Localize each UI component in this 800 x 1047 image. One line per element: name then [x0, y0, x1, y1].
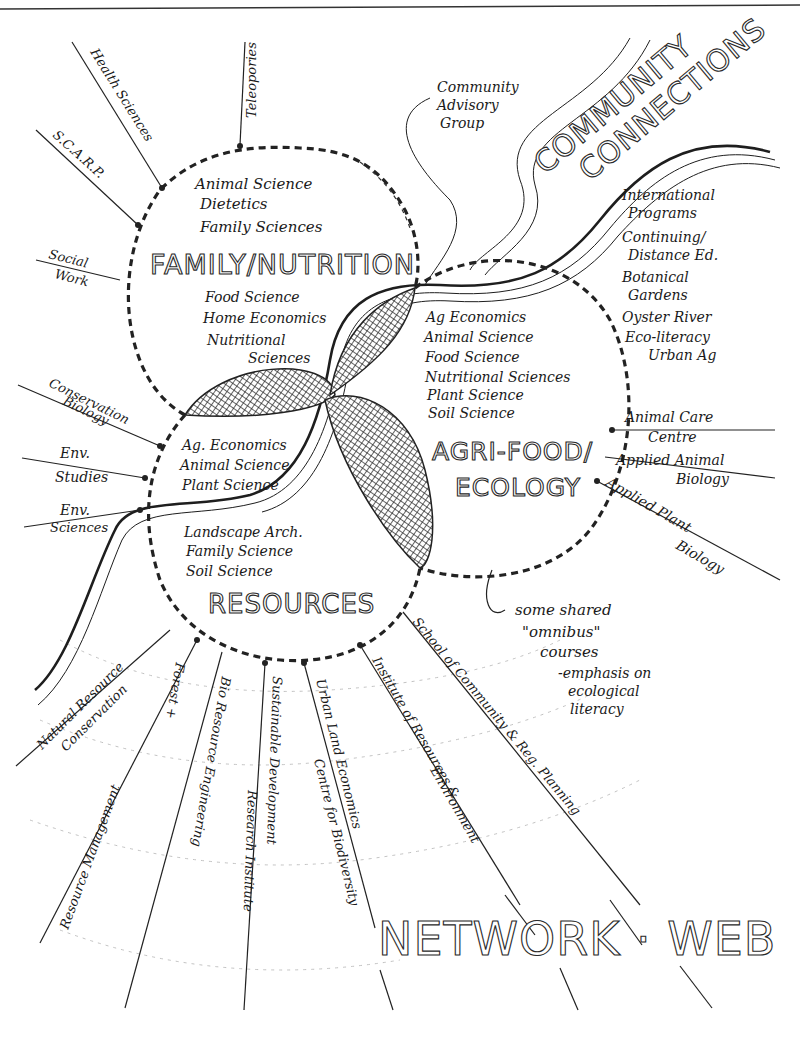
agri-food-cluster: Ag Economics Animal Science Food Science… [422, 309, 593, 502]
svg-text:Biology: Biology [673, 536, 729, 577]
agri-food-title: AGRI-FOOD/ [432, 437, 593, 466]
svg-text:Botanical: Botanical [621, 269, 689, 285]
svg-text:Home Economics: Home Economics [202, 310, 326, 326]
svg-text:Environment: Environment [427, 763, 484, 846]
svg-text:Programs: Programs [627, 205, 697, 221]
svg-text:Social: Social [47, 246, 90, 270]
svg-text:Nutritional: Nutritional [206, 332, 285, 348]
svg-text:Research Institute: Research Institute [241, 789, 260, 912]
svg-text:Family Science: Family Science [185, 543, 293, 559]
teleporties-label: Teleopories [244, 42, 259, 118]
community-connections-heading: COMMUNITY CONNECTIONS [527, 0, 773, 206]
ecology-title: ECOLOGY [455, 473, 581, 502]
svg-text:Biology: Biology [675, 471, 730, 487]
svg-text:Animal Science: Animal Science [193, 175, 312, 193]
health-sciences-label: Health Sciences [87, 45, 157, 145]
svg-text:literacy: literacy [570, 701, 625, 717]
svg-text:"omnibus": "omnibus" [522, 623, 600, 641]
svg-text:Soil Science: Soil Science [186, 563, 273, 579]
svg-text:Plant Science: Plant Science [426, 387, 524, 403]
top-border-rule [0, 5, 800, 9]
svg-text:courses: courses [540, 643, 599, 661]
svg-text:Ag. Economics: Ag. Economics [180, 437, 287, 453]
svg-text:Resource Management: Resource Management [56, 782, 123, 932]
omnibus-note: some shared "omnibus" courses -emphasis … [515, 601, 651, 717]
svg-text:-emphasis on: -emphasis on [558, 665, 651, 681]
svg-text:Oyster River: Oyster River [622, 309, 713, 325]
svg-text:Distance Ed.: Distance Ed. [627, 247, 718, 263]
svg-text:Forest +: Forest + [163, 660, 188, 720]
svg-text:Nutritional Sciences: Nutritional Sciences [424, 369, 570, 385]
svg-text:Plant Science: Plant Science [181, 477, 279, 493]
svg-text:Eco-literacy: Eco-literacy [624, 329, 711, 345]
svg-text:Dietetics: Dietetics [199, 195, 268, 213]
svg-text:Landscape Arch.: Landscape Arch. [183, 524, 303, 540]
resources-cluster: Ag. Economics Animal Science Plant Scien… [178, 437, 375, 619]
applied-animal-label: Applied Animal Biology [614, 452, 730, 487]
svg-text:Animal Science: Animal Science [422, 329, 534, 345]
applied-plant-label: Applied Plant Biology [602, 473, 729, 578]
svg-text:Sustainable Development: Sustainable Development [264, 676, 285, 846]
svg-text:Food Science: Food Science [424, 349, 520, 365]
svg-text:Urban Ag: Urban Ag [648, 347, 716, 363]
svg-text:Ag Economics: Ag Economics [424, 309, 526, 325]
animal-care-label: Animal Care Centre [623, 409, 713, 445]
svg-text:Centre for Biodiversity: Centre for Biodiversity [311, 757, 362, 908]
family-nutrition-title: FAMILY/NUTRITION [150, 249, 415, 280]
svg-text:some shared: some shared [515, 601, 612, 619]
urban-land-label: Urban Land Economics Centre for Biodiver… [311, 677, 365, 908]
svg-text:International: International [621, 187, 715, 203]
svg-text:Advisory: Advisory [435, 97, 500, 113]
svg-text:Continuing/: Continuing/ [622, 229, 707, 245]
svg-text:Family Sciences: Family Sciences [199, 218, 323, 236]
resources-title: RESOURCES [208, 589, 375, 619]
svg-text:Sciences: Sciences [248, 350, 311, 366]
svg-text:Applied Animal: Applied Animal [614, 452, 724, 468]
outreach-list: International Programs Continuing/ Dista… [621, 187, 718, 363]
natural-resource-label: Natural Resource Conservation [33, 659, 130, 754]
svg-text:Food Science: Food Science [204, 289, 300, 305]
svg-text:Centre: Centre [648, 429, 697, 445]
svg-text:Soil Science: Soil Science [428, 405, 515, 421]
svg-text:Env.: Env. [59, 502, 90, 518]
svg-text:Community: Community [437, 79, 520, 95]
svg-text:Sciences: Sciences [50, 520, 108, 535]
svg-text:Studies: Studies [55, 469, 108, 485]
svg-text:Animal Science: Animal Science [178, 457, 290, 473]
conservation-biology-label: Conservation Biology [47, 375, 132, 428]
sustainable-development-label: Sustainable Development Research Institu… [241, 676, 285, 912]
svg-text:Env.: Env. [59, 445, 90, 461]
svg-text:Group: Group [440, 115, 484, 131]
svg-text:ecological: ecological [568, 683, 640, 699]
svg-text:Animal Care: Animal Care [623, 409, 713, 425]
network-web-diagram: COMMUNITY CONNECTIONS Community Advisory… [0, 0, 800, 1047]
scarp-label: S.C.A.R.P. [50, 127, 108, 181]
network-web-heading: NETWORK · WEB [378, 912, 776, 966]
svg-text:Gardens: Gardens [628, 287, 688, 303]
community-advisory-label: Community Advisory Group [435, 79, 520, 131]
